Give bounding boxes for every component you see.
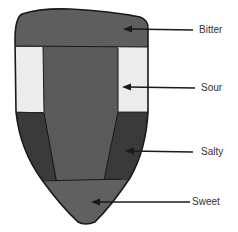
region-sweet: [0, 180, 160, 232]
label-salty: Salty: [201, 146, 223, 158]
region-sour-right: [118, 47, 160, 113]
label-sour: Sour: [201, 82, 222, 94]
tongue-regions: [0, 0, 160, 232]
region-bitter: [0, 0, 160, 47]
region-sour-left: [0, 47, 44, 113]
region-center: [43, 47, 118, 180]
label-bitter: Bitter: [199, 24, 222, 36]
label-sweet: Sweet: [192, 196, 220, 208]
